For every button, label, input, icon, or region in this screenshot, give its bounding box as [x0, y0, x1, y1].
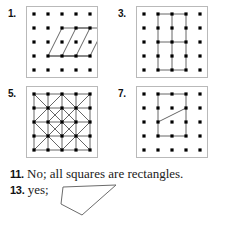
exercise-1-number: 1.: [8, 8, 16, 19]
answer-13-number: 13.: [10, 184, 24, 196]
geoboard-3: [136, 6, 208, 78]
geoboard-1-figure: [27, 7, 97, 77]
geoboard-7-figure: [137, 87, 207, 157]
answer-13-text: yes;: [28, 182, 49, 197]
answer-11: 11. No; all squares are rectangles.: [10, 166, 183, 182]
geoboard-5-figure: [27, 87, 97, 157]
exercise-7-number: 7.: [118, 88, 126, 99]
answer-13: 13. yes;: [10, 182, 49, 198]
answer-11-text: No; all squares are rectangles.: [27, 166, 183, 181]
answer-11-number: 11.: [10, 168, 24, 180]
geoboard-1: [26, 6, 98, 78]
quadrilateral-figure: [58, 183, 122, 221]
answer-key-page: 1. 3. 5. 7. 11. No; all squares are rect…: [0, 0, 231, 226]
geoboard-5: [26, 86, 98, 158]
exercise-3-number: 3.: [118, 8, 126, 19]
geoboard-7: [136, 86, 208, 158]
quadrilateral-sketch: [58, 183, 122, 225]
exercise-5-number: 5.: [8, 88, 16, 99]
geoboard-3-figure: [137, 7, 207, 77]
